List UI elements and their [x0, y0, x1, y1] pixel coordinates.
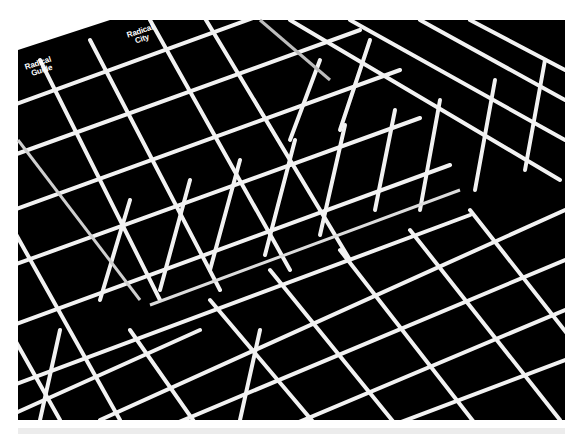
cube-pattern-graphic — [0, 0, 582, 434]
bottom-strip — [18, 428, 565, 434]
poster-photo — [0, 0, 582, 434]
